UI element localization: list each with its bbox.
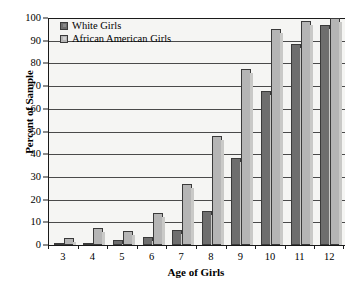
bar-white-girls-age-8 xyxy=(202,211,212,245)
x-tick-mark-7 xyxy=(166,245,167,249)
bar-white-girls-age-11 xyxy=(291,44,301,245)
bar-group-age-3 xyxy=(49,18,79,245)
x-tick-label-4: 4 xyxy=(78,250,108,266)
bar-group-age-8 xyxy=(197,18,227,245)
legend-label-african-american-girls: African American Girls xyxy=(72,33,171,44)
x-tick-mark-9 xyxy=(226,245,227,249)
y-tick-label-60: 60 xyxy=(31,104,42,115)
bar-white-girls-age-7 xyxy=(172,230,182,245)
y-tick-label-70: 70 xyxy=(31,81,42,92)
bar-group-age-6 xyxy=(138,18,168,245)
bar-shadow xyxy=(310,25,313,244)
bar-shadow xyxy=(221,140,224,245)
legend-swatch-icon-african-american-girls xyxy=(60,35,68,43)
x-tick-mark-10 xyxy=(255,245,256,249)
legend-label-white-girls: White Girls xyxy=(72,20,121,31)
x-tick-label-12: 12 xyxy=(314,250,344,266)
bar-african-american-girls-age-12 xyxy=(330,18,340,245)
x-tick-label-11: 11 xyxy=(285,250,315,266)
x-tick-label-9: 9 xyxy=(226,250,256,266)
bar-white-girls-age-9 xyxy=(231,158,241,245)
bar-group-age-11 xyxy=(286,18,316,245)
bar-white-girls-age-10 xyxy=(261,91,271,245)
bar-african-american-girls-age-4 xyxy=(93,228,103,245)
y-axis-ticks: 0102030405060708090100 xyxy=(0,18,48,245)
bar-group-age-5 xyxy=(108,18,138,245)
bar-chart-figure: Percent of Sample 0102030405060708090100… xyxy=(0,0,357,285)
x-tick-label-7: 7 xyxy=(166,250,196,266)
bar-african-american-girls-age-3 xyxy=(64,238,74,245)
x-axis-tick-labels: 3456789101112 xyxy=(48,250,344,266)
bar-shadow xyxy=(102,232,105,245)
y-tick-label-30: 30 xyxy=(31,172,42,183)
bar-shadow xyxy=(162,217,165,245)
bar-african-american-girls-age-8 xyxy=(212,136,222,245)
bar-white-girls-age-6 xyxy=(143,237,153,245)
y-tick-label-0: 0 xyxy=(36,240,41,251)
bar-african-american-girls-age-11 xyxy=(301,21,311,245)
x-tick-mark-3 xyxy=(48,245,49,249)
y-tick-label-40: 40 xyxy=(31,149,42,160)
x-tick-mark-6 xyxy=(137,245,138,249)
x-tick-mark-8 xyxy=(196,245,197,249)
bar-group-age-10 xyxy=(256,18,286,245)
bar-african-american-girls-age-7 xyxy=(182,184,192,245)
y-tick-label-50: 50 xyxy=(31,126,42,137)
x-tick-label-3: 3 xyxy=(48,250,78,266)
x-tick-mark-5 xyxy=(107,245,108,249)
bar-group-age-9 xyxy=(227,18,257,245)
legend-swatch-icon-white-girls xyxy=(60,22,68,30)
legend-item-african-american-girls: African American Girls xyxy=(60,33,171,44)
bar-group-age-12 xyxy=(315,18,345,245)
bar-white-girls-age-12 xyxy=(320,25,330,245)
legend-item-white-girls: White Girls xyxy=(60,20,171,31)
bar-african-american-girls-age-10 xyxy=(271,29,281,245)
x-tick-mark-end xyxy=(343,245,344,249)
x-tick-label-10: 10 xyxy=(255,250,285,266)
bar-shadow xyxy=(250,73,253,245)
y-tick-label-90: 90 xyxy=(31,35,42,46)
bar-group-age-7 xyxy=(167,18,197,245)
y-tick-label-20: 20 xyxy=(31,194,42,205)
x-axis-title: Age of Girls xyxy=(48,266,344,278)
bar-shadow xyxy=(132,235,135,244)
bar-shadow xyxy=(191,188,194,245)
bar-african-american-girls-age-6 xyxy=(153,213,163,245)
bar-african-american-girls-age-9 xyxy=(241,69,251,245)
chart-legend: White Girls African American Girls xyxy=(60,20,171,44)
x-tick-label-8: 8 xyxy=(196,250,226,266)
bar-group-age-4 xyxy=(79,18,109,245)
bar-african-american-girls-age-5 xyxy=(123,231,133,245)
plot-area xyxy=(48,18,345,246)
y-tick-label-80: 80 xyxy=(31,58,42,69)
x-tick-mark-12 xyxy=(314,245,315,249)
y-tick-label-100: 100 xyxy=(25,13,41,24)
bar-shadow xyxy=(339,22,342,245)
bar-groups xyxy=(49,18,345,245)
y-tick-label-10: 10 xyxy=(31,217,42,228)
x-tick-label-6: 6 xyxy=(137,250,167,266)
x-tick-mark-11 xyxy=(285,245,286,249)
bar-shadow xyxy=(280,33,283,244)
x-tick-mark-4 xyxy=(78,245,79,249)
x-tick-label-5: 5 xyxy=(107,250,137,266)
